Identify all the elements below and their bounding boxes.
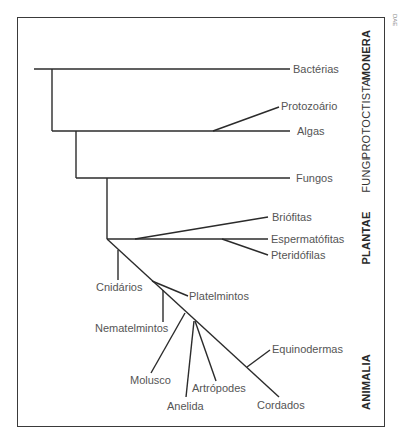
leaf-algas: Algas [297,125,325,137]
kingdom-monera: MONERA [360,30,372,81]
leaf-cordados: Cordados [257,399,305,411]
kingdom-protoctista: PROTOCTISTA [360,79,372,160]
branch-briofitas [135,217,268,239]
kingdom-fungi: FUNGI [360,157,372,193]
leaf-protozoario: Protozoário [281,100,337,112]
leaf-anelida: Anelida [167,400,204,412]
leaf-fungos: Fungos [296,172,333,184]
kingdom-animalia: ANIMALIA [360,354,372,410]
leaf-platelmintos: Platelmintos [189,290,249,302]
leaf-briofitas: Briófitas [272,211,312,223]
leaf-nematelmintos: Nematelmintos [95,322,168,334]
leaf-artropodes: Artrópodes [192,382,246,394]
leaf-cnidarios: Cnidários [96,281,142,293]
kingdom-plantae: PLANTAE [360,211,372,264]
phylogenetic-tree [0,0,416,443]
leaf-bacterias: Bactérias [293,63,339,75]
branch-pteridofilas [222,239,268,255]
leaf-molusco: Molusco [130,374,171,386]
leaf-equinodermas: Equinodermas [272,343,343,355]
branch-equinodermas [247,350,270,367]
branch-protozoario [213,107,279,131]
leaf-pteridofilas: Pteridófilas [271,249,325,261]
leaf-espermatofitas: Espermatófitas [271,233,344,245]
branch-platelmintos [152,281,188,296]
